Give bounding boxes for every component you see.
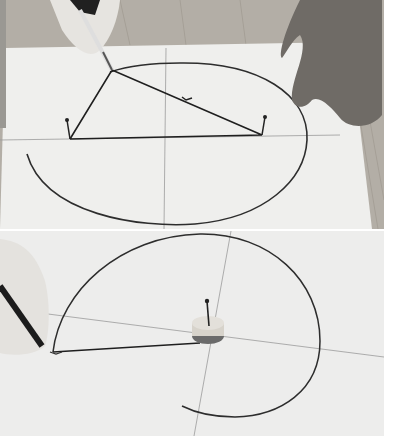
- photo-spiral-construction: [0, 231, 384, 436]
- photo-ellipse-construction: [0, 0, 384, 229]
